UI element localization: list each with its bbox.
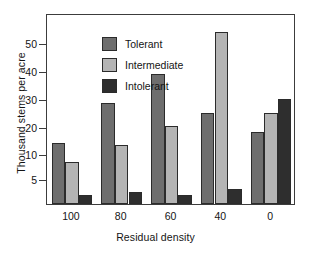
legend-item-tolerant: Tolerant	[102, 34, 183, 53]
y-tick-mark	[39, 128, 46, 129]
y-tick-mark	[39, 155, 46, 156]
bar	[115, 145, 129, 204]
y-tick-label: 40	[0, 66, 37, 78]
y-tick-mark	[39, 100, 46, 101]
bar	[101, 103, 115, 204]
bar	[251, 132, 265, 204]
legend-item-intermediate: Intermediate	[102, 55, 183, 74]
y-tick-label: 30	[0, 94, 37, 106]
bar	[165, 126, 179, 204]
legend-swatch-icon-tolerant	[102, 37, 117, 51]
bar	[201, 113, 215, 204]
y-tick-label: 5	[0, 174, 37, 186]
x-tick-label: 0	[240, 210, 300, 222]
y-tick-label: 50	[0, 38, 37, 50]
bar	[79, 195, 93, 204]
bar-chart: Thousand stems per acre 51020304050 Tole…	[0, 0, 311, 255]
y-tick-mark	[39, 72, 46, 73]
bar	[264, 113, 278, 204]
x-axis-title: Residual density	[0, 231, 311, 243]
bar	[215, 32, 229, 204]
legend-label-tolerant: Tolerant	[125, 38, 162, 50]
legend-item-intolerant: Intolerant	[102, 76, 183, 95]
bar	[65, 162, 79, 205]
legend-label-intolerant: Intolerant	[125, 80, 169, 92]
bar	[228, 189, 242, 204]
legend: Tolerant Intermediate Intolerant	[102, 34, 183, 97]
bar	[129, 192, 143, 205]
y-tick-mark	[39, 180, 46, 181]
legend-swatch-icon-intermediate	[102, 58, 117, 72]
legend-swatch-icon-intolerant	[102, 79, 117, 93]
y-tick-label: 10	[0, 149, 37, 161]
y-tick-mark	[39, 44, 46, 45]
bar	[52, 143, 66, 204]
legend-label-intermediate: Intermediate	[125, 59, 183, 71]
bar	[178, 195, 192, 205]
bar	[278, 99, 292, 204]
plot-area: Tolerant Intermediate Intolerant	[46, 14, 295, 205]
y-tick-label: 20	[0, 122, 37, 134]
